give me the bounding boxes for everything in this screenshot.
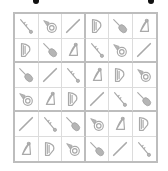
- grid-cell[interactable]: [15, 137, 39, 162]
- grid-cell[interactable]: [39, 112, 63, 137]
- violin-icon: [17, 66, 35, 84]
- flute-icon: [17, 115, 35, 133]
- grid-cell[interactable]: [15, 63, 39, 88]
- grid-cell[interactable]: [109, 63, 133, 88]
- horn-icon: [41, 17, 59, 35]
- clarinet-icon: [17, 17, 35, 35]
- grid-cell[interactable]: [39, 63, 63, 88]
- flute-icon: [88, 90, 106, 108]
- puzzle-grid: [13, 12, 158, 163]
- grid-cell[interactable]: [15, 14, 39, 39]
- grid-cell[interactable]: [62, 88, 86, 113]
- grid-cell[interactable]: [133, 88, 157, 113]
- flute-icon: [135, 41, 153, 59]
- grid-cell[interactable]: [86, 137, 110, 162]
- grid-cell[interactable]: [62, 14, 86, 39]
- cut-off-header-mark-left: [33, 0, 39, 4]
- grid-cell[interactable]: [39, 88, 63, 113]
- grid-cell[interactable]: [86, 88, 110, 113]
- flute-icon: [41, 66, 59, 84]
- grid-cell[interactable]: [109, 112, 133, 137]
- cut-off-header-mark-right: [148, 0, 154, 4]
- lyre-icon: [64, 41, 82, 59]
- lyre-icon: [17, 140, 35, 158]
- grid-cell[interactable]: [133, 63, 157, 88]
- violin-icon: [135, 90, 153, 108]
- grid-cell[interactable]: [62, 137, 86, 162]
- grid-cell[interactable]: [15, 39, 39, 64]
- grid-cell[interactable]: [39, 14, 63, 39]
- grid-cell[interactable]: [109, 88, 133, 113]
- horn-icon: [111, 41, 129, 59]
- horn-icon: [64, 140, 82, 158]
- violin-icon: [64, 115, 82, 133]
- grid-cell[interactable]: [109, 14, 133, 39]
- violin-icon: [41, 41, 59, 59]
- flute-icon: [111, 140, 129, 158]
- harp-icon: [111, 66, 129, 84]
- lyre-icon: [135, 17, 153, 35]
- violin-icon: [111, 17, 129, 35]
- grid-cell[interactable]: [86, 112, 110, 137]
- grid-cell[interactable]: [109, 39, 133, 64]
- grid-cell[interactable]: [15, 112, 39, 137]
- grid-cell[interactable]: [62, 112, 86, 137]
- horn-icon: [17, 90, 35, 108]
- grid-cell[interactable]: [15, 88, 39, 113]
- horn-icon: [135, 66, 153, 84]
- clarinet-icon: [41, 115, 59, 133]
- grid-cell[interactable]: [39, 137, 63, 162]
- flute-icon: [64, 17, 82, 35]
- grid-cell[interactable]: [133, 137, 157, 162]
- clarinet-icon: [111, 90, 129, 108]
- violin-icon: [88, 140, 106, 158]
- grid-cell[interactable]: [86, 63, 110, 88]
- grid-cell[interactable]: [109, 137, 133, 162]
- harp-icon: [135, 115, 153, 133]
- clarinet-icon: [135, 140, 153, 158]
- clarinet-icon: [88, 41, 106, 59]
- harp-icon: [64, 90, 82, 108]
- clarinet-icon: [64, 66, 82, 84]
- grid-cell[interactable]: [86, 14, 110, 39]
- harp-icon: [41, 140, 59, 158]
- harp-icon: [17, 41, 35, 59]
- grid-cell[interactable]: [62, 39, 86, 64]
- lyre-icon: [111, 115, 129, 133]
- grid-cell[interactable]: [62, 63, 86, 88]
- lyre-icon: [41, 90, 59, 108]
- grid-cell[interactable]: [86, 39, 110, 64]
- horn-icon: [88, 115, 106, 133]
- grid-cell[interactable]: [39, 39, 63, 64]
- grid-cell[interactable]: [133, 39, 157, 64]
- grid-cell[interactable]: [133, 14, 157, 39]
- lyre-icon: [88, 66, 106, 84]
- harp-icon: [88, 17, 106, 35]
- grid-cell[interactable]: [133, 112, 157, 137]
